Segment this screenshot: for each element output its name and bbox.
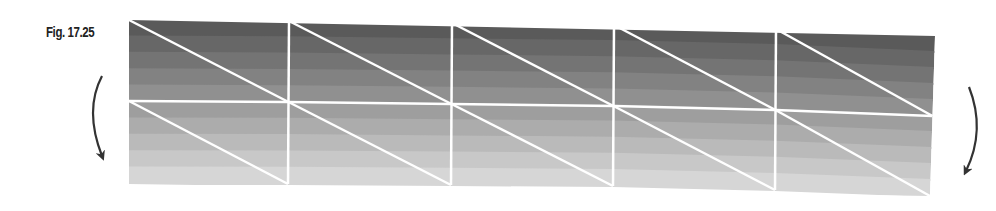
- fe-mesh-diagram: [0, 0, 996, 211]
- contour-bands: [129, 19, 935, 197]
- left-moment-arrow-icon: [93, 76, 102, 156]
- mesh-horizontal-edge: [129, 101, 289, 102]
- right-moment-arrow-icon: [966, 87, 977, 171]
